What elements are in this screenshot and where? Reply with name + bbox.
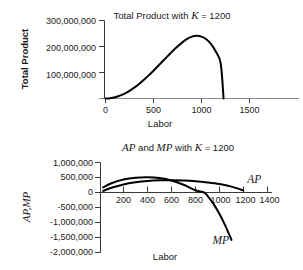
x-tick-label-0: 0 [103,105,108,115]
x-tick-label-1500: 1500 [239,105,259,115]
x-tick-label-400: 400 [140,195,155,205]
x-tick-label-600: 600 [164,195,179,205]
title-text-post: = 1200 [199,10,231,21]
economics-production-figure: Total Product with K = 1200 Total Produc… [0,0,303,270]
y-tick-label-200000000: 200,000,000 [46,43,96,53]
marginal-product-curve [103,177,231,240]
ap-mp-x-axis-title: Labor [153,251,177,262]
x-tick-label-1400: 1400 [259,195,279,205]
average-product-series-label: AP [246,173,261,185]
ap-mp-chart-title: AP and MP with K = 1200 [121,141,234,153]
total-product-y-axis-title: Total Product [19,28,30,89]
title-ap-symbol: AP [121,141,136,153]
total-product-curve [106,36,224,99]
y-tick-label-300000000: 300,000,000 [46,16,96,26]
total-product-x-axis-title: Labor [148,118,172,129]
ap-mp-y-axis-title: AP,MP [20,191,32,223]
title-text-post: = 1200 [202,142,234,153]
marginal-product-series-label: MP [211,234,229,246]
y-tick-label-negative-1000000: -1,000,000 [50,217,93,227]
y-tick-label-0: 0 [88,187,93,197]
total-product-chart: Total Product with K = 1200 Total Produc… [0,0,303,132]
y-tick-label-negative-500000: -500,000 [57,202,93,212]
x-tick-label-800: 800 [188,195,203,205]
y-tick-label-1000000: 1,000,000 [53,158,93,168]
y-tick-label-negative-1500000: -1,500,000 [50,232,93,242]
x-tick-label-1000: 1000 [191,105,211,115]
title-mp-symbol: MP [156,141,173,153]
x-tick-label-200: 200 [116,195,131,205]
total-product-chart-title: Total Product with K = 1200 [114,9,231,21]
title-text-and: and [135,142,156,153]
x-tick-label-500: 500 [146,105,161,115]
x-tick-label-1200: 1200 [235,195,255,205]
title-text-pre: Total Product with [114,10,192,21]
average-marginal-product-chart: AP and MP with K = 1200 AP,MP 1,000,000 … [0,132,303,270]
y-tick-label-500000: 500,000 [60,172,93,182]
y-tick-label-negative-2000000: -2,000,000 [50,247,93,257]
y-tick-label-100000000: 100,000,000 [46,70,96,80]
title-text-with: with [172,142,194,153]
